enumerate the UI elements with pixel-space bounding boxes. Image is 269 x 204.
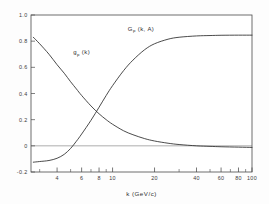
x-axis-tick-labels: 4681020406080100 [55,175,257,181]
figure-container: -0.200.20.40.60.81.0 4681020406080100 gp… [0,0,269,204]
label-tail: (k, A) [136,26,154,32]
x-tick-label: 10 [109,175,116,181]
y-tick-label: 0.6 [19,64,28,70]
y-tick-label: 1.0 [19,12,28,18]
plot-frame [31,15,252,172]
x-tick-label: 4 [55,175,58,181]
y-tick-label: 0.8 [19,38,28,44]
x-tick-label: 80 [235,175,242,181]
x-tick-label: 8 [97,175,100,181]
chart-svg: -0.200.20.40.60.81.0 4681020406080100 gp… [0,0,269,204]
y-tick-label: 0.2 [19,117,28,123]
y-axis-tick-labels: -0.200.20.40.60.81.0 [17,12,28,175]
label-tail: (k) [80,49,90,55]
x-tick-label: 60 [218,175,225,181]
y-tick-label: 0 [24,143,27,149]
y-tick-label: 0.4 [19,91,28,97]
y-tick-label: -0.2 [17,169,28,175]
x-axis-title: k (GeV/c) [126,190,157,197]
x-tick-label: 40 [193,175,200,181]
x-tick-label: 100 [247,175,257,181]
x-tick-label: 6 [80,175,83,181]
x-tick-label: 20 [151,175,158,181]
